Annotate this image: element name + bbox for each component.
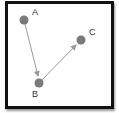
node-c[interactable] — [77, 36, 86, 45]
edge-a-b — [24, 20, 38, 76]
node-c-label: C — [89, 27, 96, 37]
node-b-label: B — [32, 89, 38, 99]
node-a-label: A — [32, 7, 38, 17]
node-b[interactable] — [35, 79, 44, 88]
edge-b-c — [39, 45, 76, 83]
node-a[interactable] — [20, 16, 29, 25]
graph-canvas: A B C — [0, 0, 119, 113]
